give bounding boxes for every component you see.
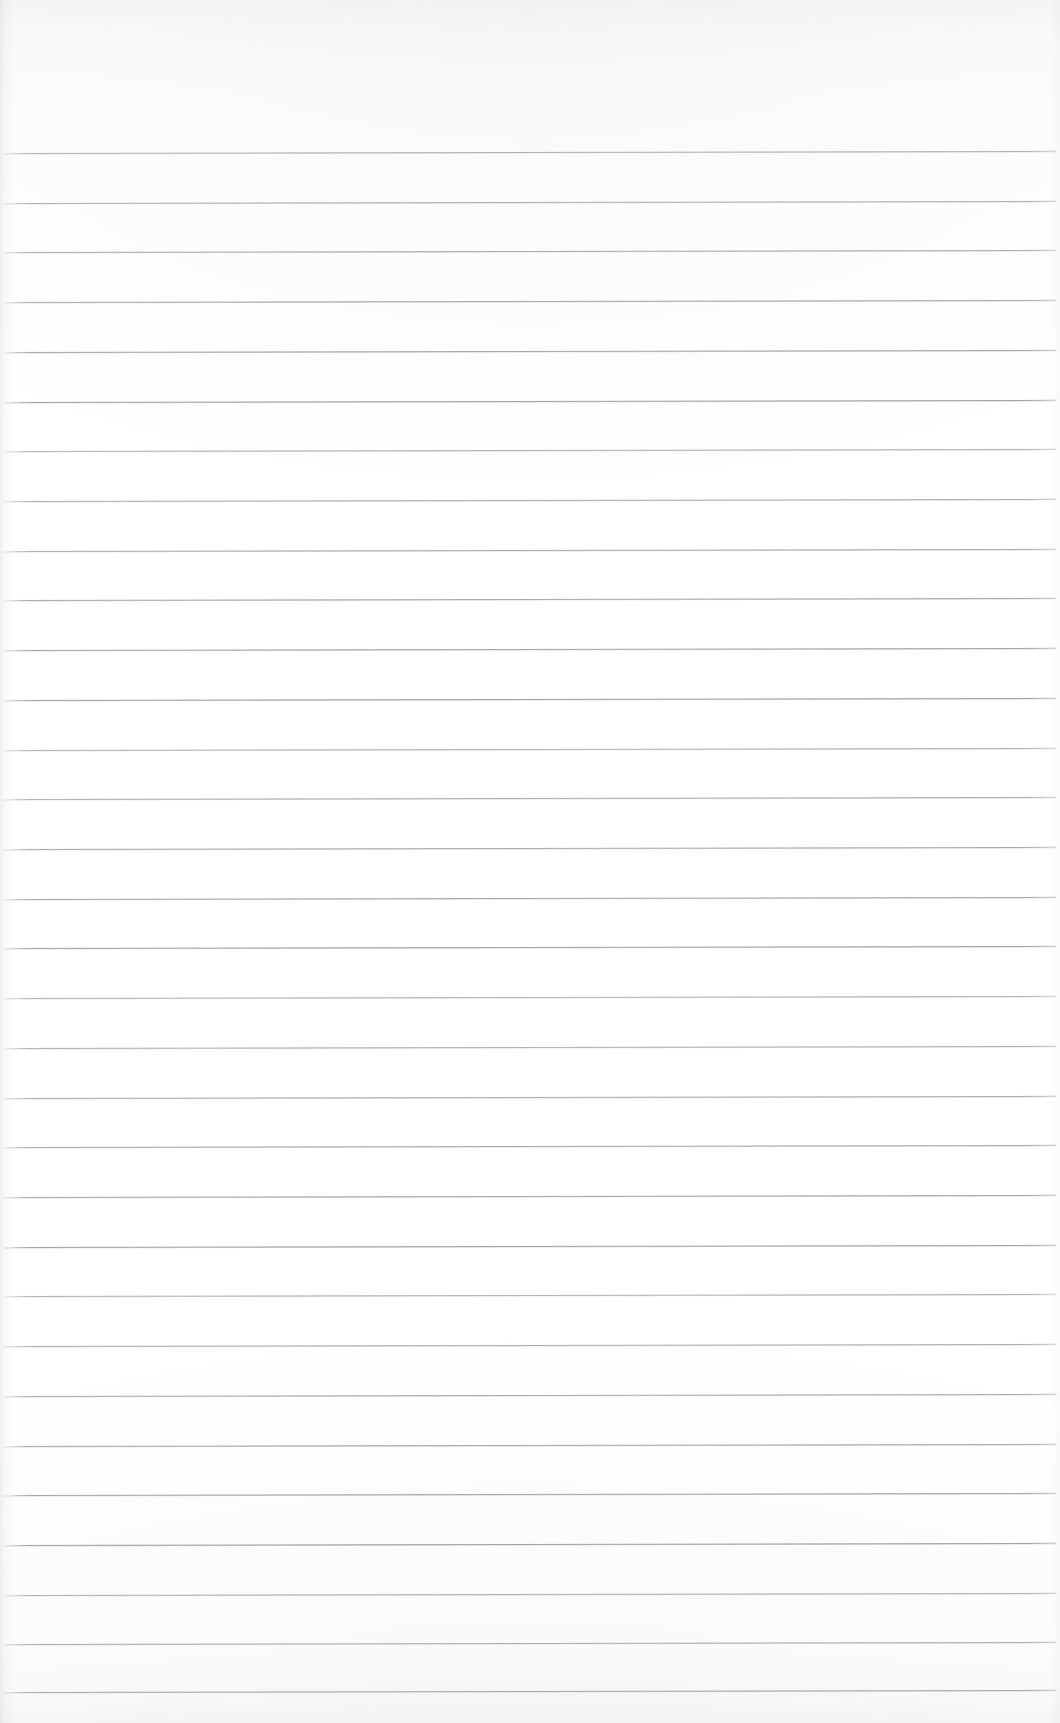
rule-line	[4, 499, 1056, 502]
rule-line	[4, 1096, 1056, 1099]
rule-line	[4, 549, 1056, 552]
rule-line	[4, 1543, 1056, 1546]
rule-line	[4, 1642, 1056, 1645]
rule-line	[4, 151, 1056, 154]
rule-line	[4, 300, 1056, 303]
rule-line	[4, 648, 1056, 651]
rule-line	[4, 449, 1056, 452]
rule-line	[4, 1046, 1056, 1049]
rule-line	[4, 1195, 1056, 1198]
rule-line	[4, 748, 1056, 751]
rule-line	[4, 1593, 1056, 1596]
rule-line	[4, 847, 1056, 850]
rule-line	[4, 1344, 1056, 1347]
rule-line	[4, 698, 1056, 701]
rule-line	[4, 1245, 1056, 1248]
rule-line	[4, 250, 1056, 253]
rule-line	[4, 350, 1056, 353]
rule-line	[4, 946, 1056, 949]
ruled-lines-container	[0, 0, 1060, 1723]
rule-line	[4, 201, 1056, 204]
rule-line	[4, 400, 1056, 403]
rule-line	[4, 1444, 1056, 1447]
rule-line	[4, 996, 1056, 999]
rule-line	[4, 797, 1056, 800]
rule-line	[4, 1690, 1056, 1693]
rule-line	[4, 1394, 1056, 1397]
rule-line	[4, 1294, 1056, 1297]
rule-line	[4, 1145, 1056, 1148]
rule-line	[4, 897, 1056, 900]
notebook-page	[0, 0, 1060, 1723]
rule-line	[4, 598, 1056, 601]
rule-line	[4, 1493, 1056, 1496]
